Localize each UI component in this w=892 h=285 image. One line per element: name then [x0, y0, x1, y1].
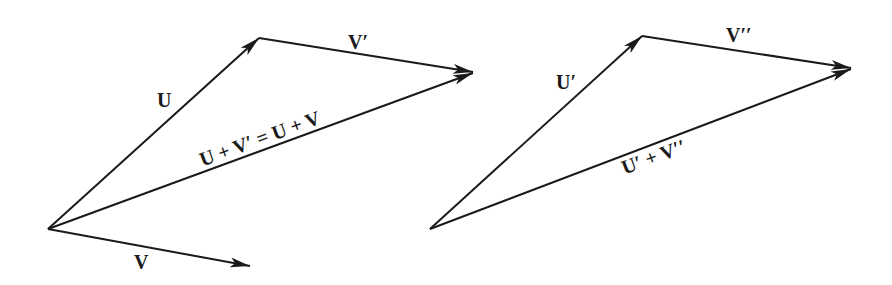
vector-addition-diagram: U V′ V U + V′ = U + V U′ V′′ U′ + V′′ [0, 0, 892, 285]
label-U-prime: U′ [556, 72, 576, 92]
label-V: V [134, 252, 148, 272]
vector-drawing [0, 0, 892, 285]
left-triangle [48, 38, 473, 266]
label-V-prime: V′ [348, 32, 368, 52]
label-V-double-prime: V′′ [726, 25, 752, 45]
vector-V-arrow [48, 229, 250, 266]
vector-U-prime-arrow [430, 36, 642, 229]
right-triangle [430, 36, 851, 229]
label-U: U [157, 90, 171, 110]
vector-U-arrow [48, 38, 259, 229]
vector-sum-arrow [48, 73, 473, 229]
